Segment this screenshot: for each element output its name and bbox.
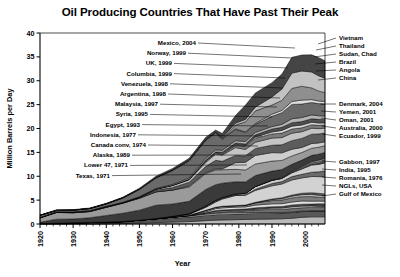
annotation-label: Norway, 1999: [147, 49, 187, 56]
annotation-label: Syria, 1995: [116, 110, 149, 117]
legend-label: Gabbon, 1997: [339, 158, 380, 165]
x-tick-label: 1940: [102, 231, 111, 247]
annotation-label: Venezuela, 1998: [121, 80, 169, 87]
y-tick-label: 20: [27, 124, 35, 133]
annotation-label: Texas, 1971: [76, 172, 111, 179]
chart-container: Oil Producing Countries That Have Past T…: [0, 0, 400, 277]
legend-label: Ecuador, 1999: [339, 132, 381, 139]
x-tick-label: 1970: [201, 231, 210, 247]
annotation-label: Indonesia, 1977: [90, 131, 137, 138]
legend-label: Australia, 2000: [339, 124, 383, 131]
legend-label: Romania, 1976: [339, 174, 383, 181]
legend-label: Angola: [339, 66, 361, 73]
x-tick-label: 1980: [234, 231, 243, 247]
annotation-label: Alaska, 1989: [93, 151, 131, 158]
y-tick-label: 40: [27, 29, 35, 38]
legend-label: India, 1995: [339, 166, 371, 173]
x-tick-label: 2000: [301, 231, 310, 247]
y-tick-label: 5: [31, 196, 35, 205]
legend-label: China: [339, 74, 357, 81]
legend-label: Yemen, 2001: [339, 108, 377, 115]
annotation-label: Lower 47, 1971: [84, 161, 129, 168]
legend-label: Brazil: [339, 58, 356, 65]
annotation-label: Columbia, 1999: [127, 70, 173, 77]
annotation-label: UK, 1999: [146, 59, 173, 66]
chart-title: Oil Producing Countries That Have Past T…: [62, 5, 339, 18]
annotation-label: Egypt, 1993: [106, 121, 141, 128]
x-tick-label: 1930: [69, 231, 78, 247]
y-tick-label: 10: [27, 172, 35, 181]
x-tick-label: 1960: [168, 231, 177, 247]
annotation-label: Canada conv, 1974: [91, 141, 147, 148]
x-axis-label: Year: [175, 259, 191, 268]
y-tick-label: 15: [27, 148, 35, 157]
annotation-label: Malaysia, 1997: [115, 100, 159, 107]
x-tick-label: 1990: [268, 231, 277, 247]
legend-label: Denmark, 2004: [339, 100, 383, 107]
legend-label: Oman, 2001: [339, 116, 374, 123]
legend-label: Gulf of Mexico: [339, 190, 382, 197]
y-tick-label: 0: [31, 220, 35, 229]
y-tick-label: 35: [27, 52, 35, 61]
y-tick-label: 25: [27, 100, 35, 109]
legend-label: Vietnam: [339, 34, 363, 41]
y-tick-label: 30: [27, 76, 35, 85]
stacked-area-chart: Oil Producing Countries That Have Past T…: [0, 0, 400, 277]
legend-label: Thailand: [339, 42, 365, 49]
annotation-label: Mexico, 2004: [158, 39, 197, 46]
y-axis-label: Million Barrels per Day: [5, 88, 14, 169]
legend-label: NGLs, USA: [339, 182, 373, 189]
annotation-label: Argentina, 1998: [120, 90, 167, 97]
x-tick-label: 1920: [36, 231, 45, 247]
x-tick-label: 1950: [135, 231, 144, 247]
legend-label: Sudan, Chad: [339, 50, 377, 57]
